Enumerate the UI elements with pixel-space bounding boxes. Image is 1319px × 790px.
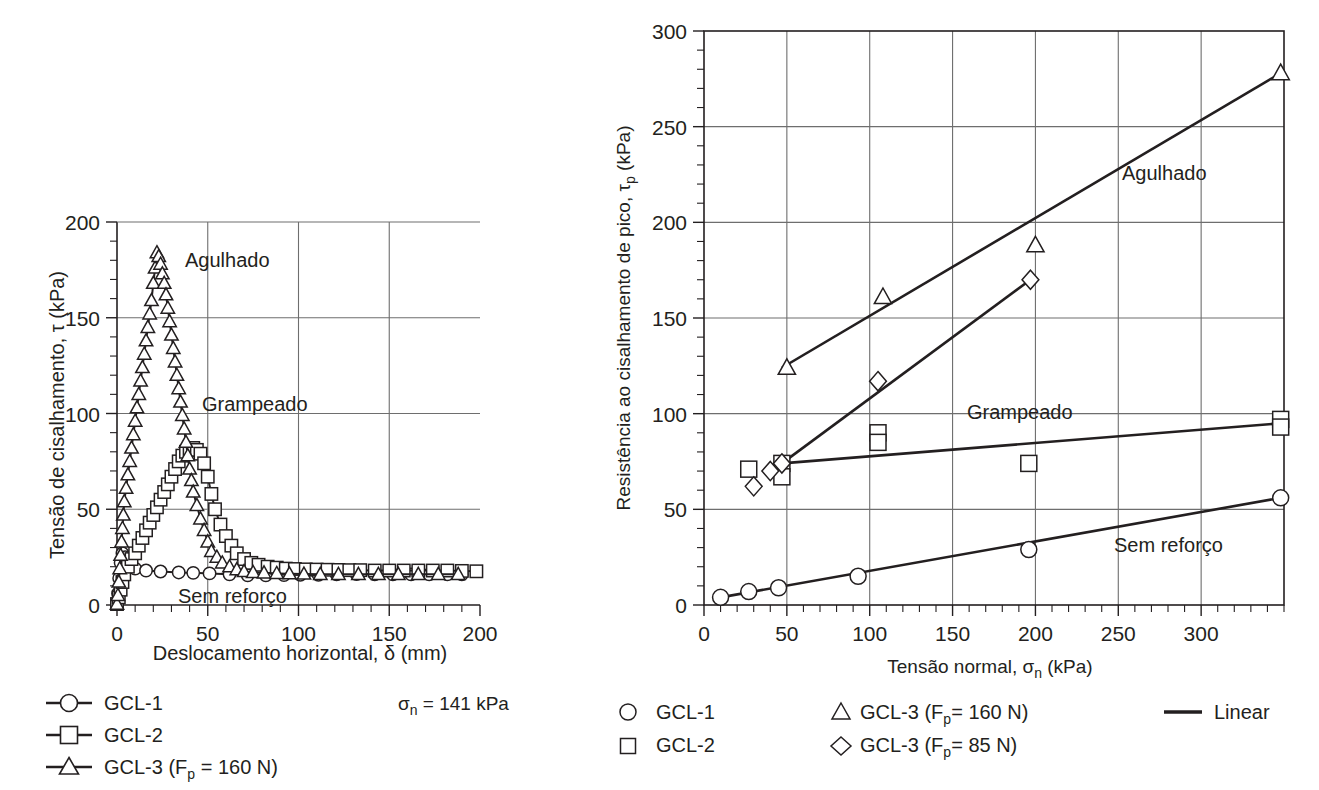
left-chart-panel: 050100150200050100150200 Tensão de cisal… — [0, 0, 560, 790]
right-x-axis-title: Tensão normal, σn (kPa) — [887, 656, 1092, 681]
circle-marker-icon — [771, 580, 787, 596]
square-marker-icon — [209, 503, 221, 515]
circle-marker-icon — [1273, 490, 1289, 506]
right-chart-panel: 050100150200250300050100150200250300 Res… — [560, 0, 1319, 790]
right-legend-label-gcl3-85: GCL-3 (Fp= 85 N) — [860, 734, 1017, 760]
square-marker-icon — [214, 518, 226, 530]
triangle-marker-icon — [145, 294, 158, 306]
triangle-marker-icon — [130, 401, 143, 413]
triangle-marker-icon — [139, 334, 152, 346]
left-legend-label-gcl2: GCL-2 — [104, 724, 163, 746]
diamond-marker-icon — [1022, 270, 1039, 289]
right-legend-item-gcl3-160[interactable]: GCL-3 (Fp= 160 N) — [832, 701, 1028, 727]
triangle-marker-icon — [187, 485, 200, 497]
circle-marker-icon — [203, 567, 215, 579]
left-legend-item-gcl1[interactable]: GCL-1 — [46, 692, 163, 714]
x-tick-label: 200 — [1018, 622, 1053, 645]
x-tick-label: 250 — [1101, 622, 1136, 645]
x-tick-label: 100 — [852, 622, 887, 645]
y-tick-label: 50 — [664, 498, 687, 521]
triangle-marker-icon — [134, 374, 147, 386]
x-tick-label: 300 — [1184, 622, 1219, 645]
right-y-axis-title: Resistência ao cisalhamento de pico, τp … — [613, 126, 638, 511]
left-annotation-grampeado: Grampeado — [202, 393, 308, 415]
triangle-marker-icon — [177, 422, 190, 434]
square-marker-icon — [621, 739, 636, 754]
circle-marker-icon — [713, 589, 729, 605]
square-marker-icon — [61, 727, 78, 744]
triangle-marker-icon — [165, 328, 178, 340]
left-y-axis-title: Tensão de cisalhamento, τ (kPa) — [46, 271, 68, 559]
triangle-marker-icon — [159, 288, 172, 300]
left-legend-item-gcl3[interactable]: GCL-3 (Fp = 160 N) — [46, 756, 278, 782]
y-tick-label: 150 — [652, 307, 687, 330]
x-tick-label: 50 — [775, 622, 798, 645]
triangle-marker-icon — [197, 523, 210, 535]
circle-marker-icon — [187, 567, 199, 579]
left-annotation-agulhado: Agulhado — [185, 249, 270, 271]
square-marker-icon — [202, 470, 214, 482]
y-tick-label: 0 — [88, 594, 100, 617]
triangle-marker-icon — [832, 703, 850, 719]
triangle-marker-icon — [168, 355, 181, 367]
right-legend-item-linear[interactable]: Linear — [1164, 701, 1270, 723]
triangle-marker-icon — [170, 368, 183, 380]
fit-line — [782, 73, 1281, 368]
y-tick-label: 100 — [652, 403, 687, 426]
triangle-marker-icon — [141, 320, 154, 332]
triangle-marker-icon — [138, 347, 151, 359]
left-legend-item-gcl2[interactable]: GCL-2 — [46, 724, 163, 746]
right-legend-label-linear: Linear — [1214, 701, 1270, 723]
triangle-marker-icon — [136, 361, 149, 373]
circle-marker-icon — [154, 565, 166, 577]
triangle-marker-icon — [143, 307, 156, 319]
y-tick-label: 0 — [675, 594, 687, 617]
right-legend-item-gcl3-85[interactable]: GCL-3 (Fp= 85 N) — [831, 734, 1017, 760]
left-annotation-sem-reforco: Sem reforço — [178, 585, 287, 607]
triangle-marker-icon — [132, 387, 145, 399]
triangle-marker-icon — [185, 474, 198, 486]
square-marker-icon — [741, 461, 757, 477]
triangle-marker-icon — [118, 495, 131, 507]
left-x-axis-title: Deslocamento horizontal, δ (mm) — [153, 642, 448, 664]
right-legend-label-gcl1: GCL-1 — [656, 701, 715, 723]
left-plot-area: 050100150200050100150200 — [65, 211, 498, 645]
right-legend-item-gcl1[interactable]: GCL-1 — [620, 701, 715, 723]
triangle-marker-icon — [172, 382, 185, 394]
x-tick-label: 200 — [462, 622, 497, 645]
circle-marker-icon — [61, 695, 78, 712]
figure-root: 050100150200050100150200 Tensão de cisal… — [0, 0, 1319, 790]
triangle-marker-icon — [127, 428, 140, 440]
x-tick-label: 0 — [111, 622, 123, 645]
triangle-marker-icon — [190, 498, 203, 510]
square-marker-icon — [870, 434, 886, 450]
triangle-marker-icon — [1272, 64, 1289, 80]
y-tick-label: 50 — [77, 498, 100, 521]
y-tick-label: 150 — [65, 307, 100, 330]
triangle-marker-icon — [176, 408, 189, 420]
square-marker-icon — [1273, 419, 1289, 435]
y-tick-label: 200 — [65, 211, 100, 234]
diamond-marker-icon — [831, 737, 851, 755]
y-tick-label: 300 — [652, 20, 687, 43]
circle-marker-icon — [140, 564, 152, 576]
triangle-marker-icon — [163, 315, 176, 327]
x-tick-label: 0 — [698, 622, 710, 645]
left-sigma-note: σn = 141 kPa — [398, 693, 509, 718]
right-legend: GCL-1 GCL-2 GCL-3 (Fp= 160 N) GCL-3 (Fp=… — [620, 701, 1270, 760]
circle-marker-icon — [620, 704, 636, 720]
triangle-marker-icon — [121, 468, 134, 480]
triangle-marker-icon — [123, 454, 136, 466]
triangle-marker-icon — [167, 341, 180, 353]
triangle-marker-icon — [117, 508, 130, 520]
right-legend-item-gcl2[interactable]: GCL-2 — [621, 734, 715, 756]
triangle-marker-icon — [1027, 236, 1044, 252]
fit-line — [782, 280, 1031, 464]
y-tick-label: 250 — [652, 116, 687, 139]
left-legend-label-gcl1: GCL-1 — [104, 692, 163, 714]
circle-marker-icon — [173, 566, 185, 578]
circle-marker-icon — [850, 568, 866, 584]
left-legend: GCL-1 GCL-2 GCL-3 (Fp = 160 N) — [46, 692, 278, 782]
circle-marker-icon — [1021, 542, 1037, 558]
square-marker-icon — [205, 488, 217, 500]
